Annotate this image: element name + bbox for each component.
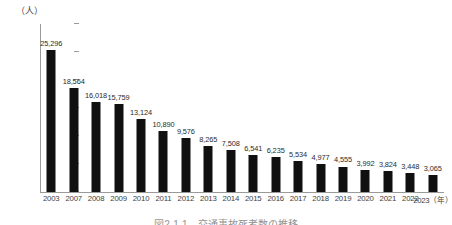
x-axis-label: 2007 — [65, 194, 82, 203]
chart-figure: （人） 05,00010,00015,00020,00025,00030,000… — [0, 0, 452, 225]
bar-value-label: 4,977 — [312, 153, 330, 162]
x-axis-labels: 2003200720082009201020112012201320142015… — [40, 194, 444, 208]
bar-value-label: 5,534 — [289, 150, 307, 159]
x-axis-label: 2016 — [267, 194, 284, 203]
bar — [271, 157, 280, 192]
x-axis-label: 2015 — [245, 194, 262, 203]
bar-value-label: 4,555 — [334, 155, 352, 164]
bar-value-label: 18,564 — [63, 77, 85, 86]
bar — [226, 150, 235, 192]
bar-value-label: 16,018 — [85, 91, 107, 100]
bar-item: 6,235 — [264, 24, 286, 192]
bar — [294, 161, 303, 192]
bar-item: 3,448 — [399, 24, 421, 192]
bar-value-label: 3,992 — [356, 159, 374, 168]
bar-value-label: 3,824 — [379, 160, 397, 169]
bar-item: 8,265 — [197, 24, 219, 192]
bar-item: 4,977 — [309, 24, 331, 192]
bar — [406, 173, 415, 192]
bar-value-label: 3,065 — [424, 164, 442, 173]
x-axis-label: 2012 — [178, 194, 195, 203]
bar-value-label: 10,890 — [152, 120, 174, 129]
bar — [69, 88, 78, 192]
bar — [428, 175, 437, 192]
bar — [316, 164, 325, 192]
bar — [159, 131, 168, 192]
bar — [249, 155, 258, 192]
bar-item: 16,018 — [85, 24, 107, 192]
bar-item: 3,824 — [377, 24, 399, 192]
bar-item: 10,890 — [152, 24, 174, 192]
x-axis-label: 2011 — [155, 194, 171, 203]
x-axis-label: 2018 — [312, 194, 329, 203]
bar-item: 18,564 — [62, 24, 84, 192]
bar-item: 5,534 — [287, 24, 309, 192]
x-axis-label: 2013 — [200, 194, 217, 203]
bar — [92, 102, 101, 192]
bar-value-label: 7,508 — [222, 139, 240, 148]
bar — [204, 146, 213, 192]
bar-item: 13,124 — [130, 24, 152, 192]
x-axis-label: 2010 — [133, 194, 150, 203]
bar-item: 3,992 — [354, 24, 376, 192]
bar — [47, 50, 56, 192]
bar — [338, 167, 347, 193]
bar-item: 6,541 — [242, 24, 264, 192]
x-axis-label: 2008 — [88, 194, 105, 203]
x-axis-label: 2023（年） — [413, 194, 452, 205]
bar-item: 3,065 — [422, 24, 444, 192]
bar-item: 25,296 — [40, 24, 62, 192]
bar-item: 4,555 — [332, 24, 354, 192]
figure-caption: 図2-1-1 交通事故死者数の推移 — [0, 214, 452, 225]
x-axis-line — [40, 192, 444, 193]
bar — [136, 119, 145, 192]
bar — [383, 171, 392, 192]
figure-caption-text: 図2-1-1 交通事故死者数の推移 — [154, 219, 297, 225]
x-axis-label: 2009 — [110, 194, 127, 203]
x-axis-label: 2003 — [43, 194, 60, 203]
x-axis-label: 2021 — [380, 194, 397, 203]
bar — [114, 104, 123, 192]
x-axis-label: 2014 — [222, 194, 239, 203]
bar-value-label: 6,541 — [244, 144, 262, 153]
x-axis-label: 2017 — [290, 194, 307, 203]
bar-item: 9,576 — [175, 24, 197, 192]
bar-series: 25,29618,56416,01815,75913,12410,8909,57… — [40, 24, 444, 192]
bar-value-label: 6,235 — [267, 146, 285, 155]
y-axis-unit-label: （人） — [16, 4, 43, 17]
bar-value-label: 25,296 — [40, 39, 62, 48]
bar-item: 7,508 — [220, 24, 242, 192]
bar-value-label: 8,265 — [199, 135, 217, 144]
x-axis-label: 2019 — [335, 194, 352, 203]
bar-value-label: 13,124 — [130, 108, 152, 117]
bar-item: 15,759 — [107, 24, 129, 192]
bar-value-label: 9,576 — [177, 127, 195, 136]
x-axis-label: 2020 — [357, 194, 374, 203]
bar-value-label: 15,759 — [108, 93, 130, 102]
bar — [361, 170, 370, 192]
bar — [181, 138, 190, 192]
bar-value-label: 3,448 — [401, 162, 419, 171]
